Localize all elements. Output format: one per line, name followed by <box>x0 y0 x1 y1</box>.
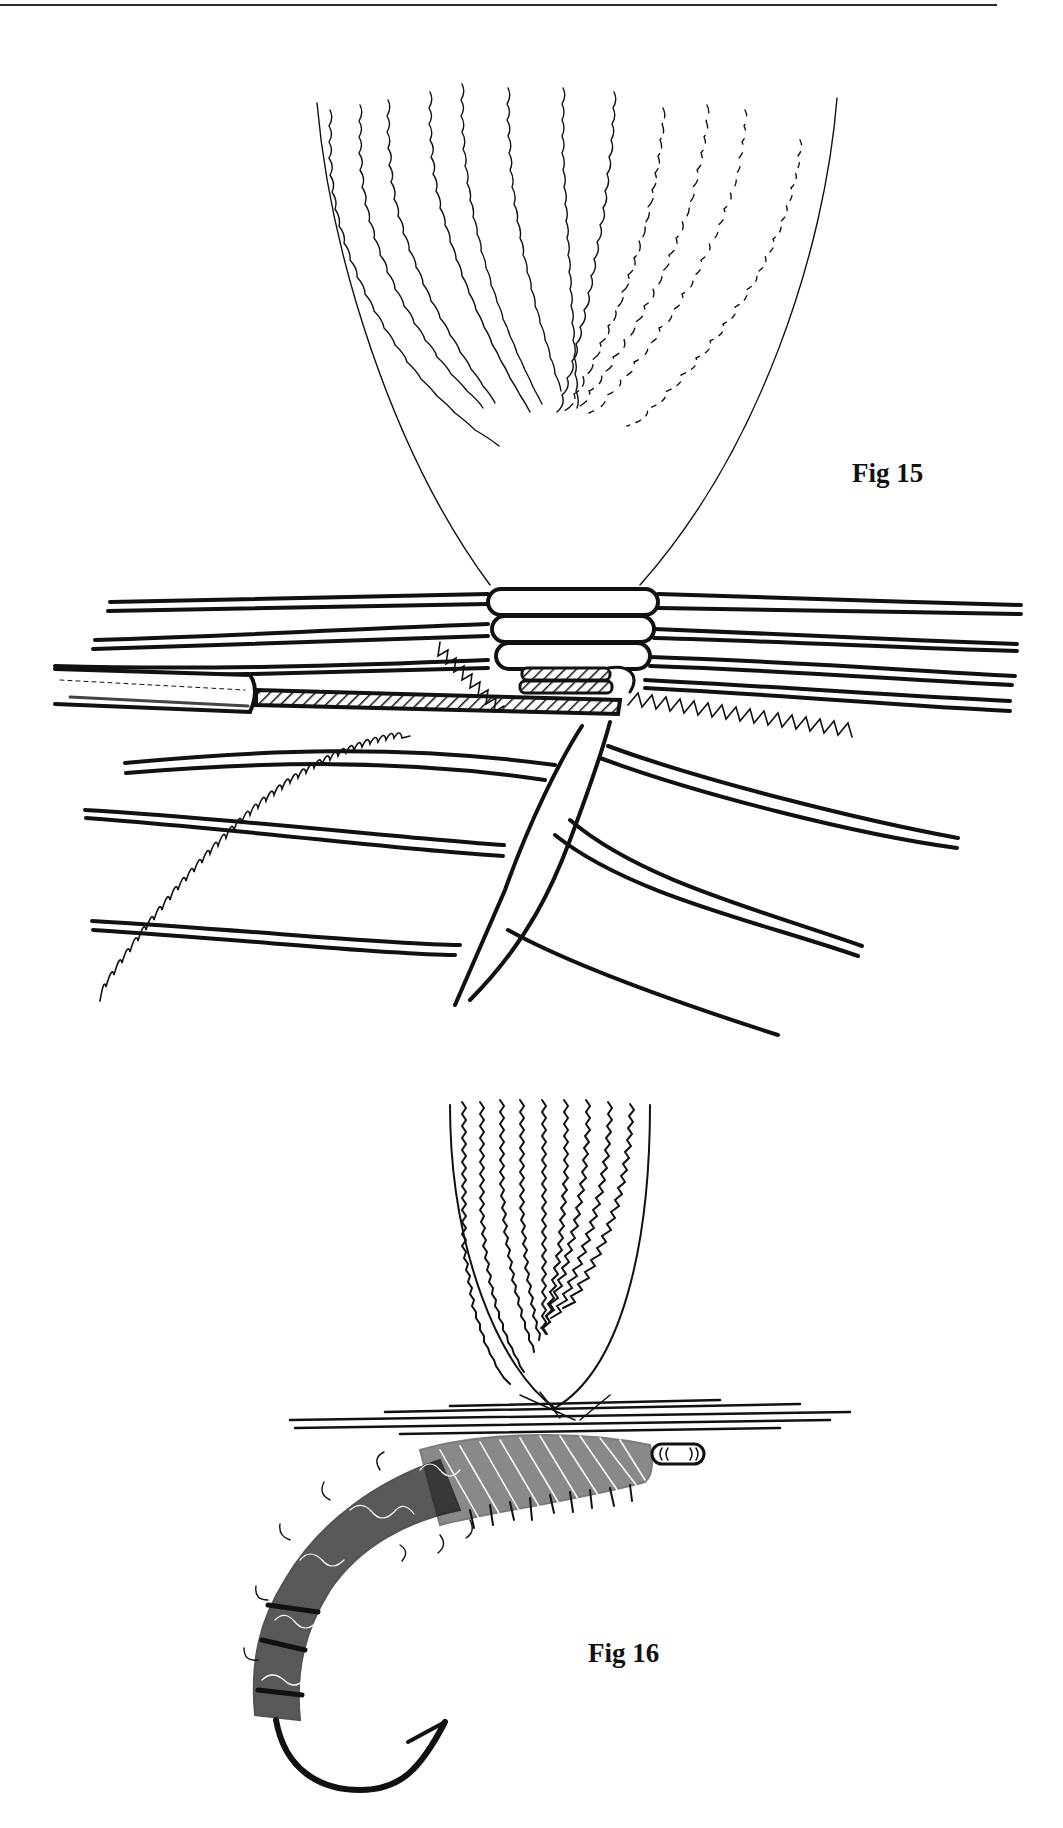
fig16-hackle-tuft <box>450 1100 650 1408</box>
fig16-drawing <box>244 1100 850 1790</box>
fig15-drawing <box>55 84 1021 1035</box>
fig16-hook <box>276 1720 445 1790</box>
fig15-label: Fig 15 <box>852 458 923 489</box>
fig16-thorax <box>420 1435 652 1528</box>
fig15-feather-quill <box>85 722 958 1035</box>
fig16-hook-eye <box>652 1444 704 1464</box>
fig15-right-fibres <box>645 594 1021 711</box>
fig15-thread-wraps <box>488 589 658 669</box>
illustration-canvas <box>0 0 1063 1828</box>
fig16-label: Fig 16 <box>588 1638 659 1669</box>
fig15-hackle-fan <box>317 84 837 585</box>
fig16-abdomen <box>244 1452 472 1720</box>
fig15-left-fibres <box>55 594 488 676</box>
fig15-wire-wraps <box>520 667 634 693</box>
